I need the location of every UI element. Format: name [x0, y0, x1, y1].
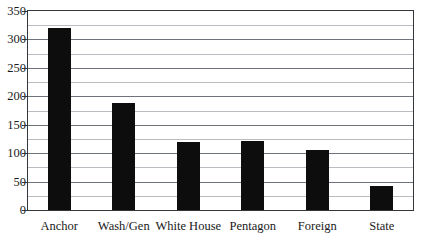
y-axis-tick-mark [22, 125, 27, 126]
x-axis-category-label: Pentagon [229, 220, 276, 233]
x-axis-category-label: Wash/Gen [98, 220, 150, 233]
x-axis-category-label: White House [155, 220, 221, 233]
gridline-major [28, 153, 413, 154]
gridline-major [28, 68, 413, 69]
y-axis-tick-mark [22, 68, 27, 69]
bar-chart: 050100150200250300350 AnchorWash/GenWhit… [0, 0, 426, 247]
plot-area [27, 10, 414, 211]
bar [241, 141, 264, 210]
y-axis-tick-mark [22, 11, 27, 12]
y-axis-tick-mark [22, 182, 27, 183]
gridline-minor [28, 167, 413, 168]
x-axis-category-label: State [369, 220, 394, 233]
gridline-major [28, 182, 413, 183]
gridline-major [28, 125, 413, 126]
bar [112, 103, 135, 210]
y-axis-tick-mark [22, 39, 27, 40]
y-axis-tick-mark [22, 210, 27, 211]
gridline-minor [28, 139, 413, 140]
x-axis-category-label: Foreign [298, 220, 337, 233]
bar [306, 150, 329, 210]
bar [48, 28, 71, 210]
bar [177, 142, 200, 210]
gridline-minor [28, 111, 413, 112]
y-axis-tick-mark [22, 153, 27, 154]
y-axis-tick-mark [22, 96, 27, 97]
gridline-major [28, 96, 413, 97]
gridline-minor [28, 54, 413, 55]
gridline-major [28, 39, 413, 40]
gridline-minor [28, 25, 413, 26]
gridline-minor [28, 196, 413, 197]
bar [370, 186, 393, 210]
x-axis-category-label: Anchor [41, 220, 79, 233]
gridline-minor [28, 82, 413, 83]
